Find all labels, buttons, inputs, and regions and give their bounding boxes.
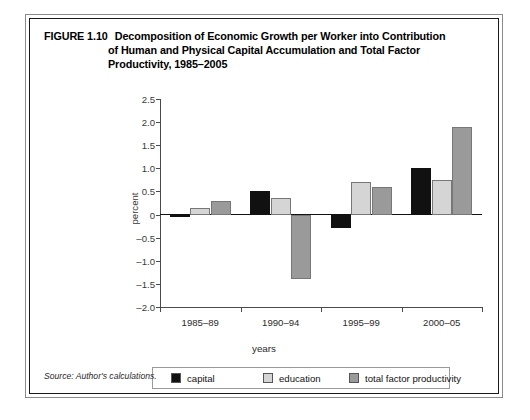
y-axis-tick-label: 1.0 xyxy=(115,163,155,174)
bar-capital-1990–94 xyxy=(250,191,270,214)
figure-title-line-3: Productivity, 1985–2005 xyxy=(108,57,484,71)
y-axis-tick-label: 2.5 xyxy=(115,94,155,105)
x-axis-tick-mark xyxy=(402,307,403,312)
bars-container: 2.52.01.51.00.50–0.5–1.0–1.5–2.0 xyxy=(160,99,482,307)
figure-title-line-1: Decomposition of Economic Growth per Wor… xyxy=(115,30,446,42)
y-axis-tick-mark xyxy=(156,168,160,169)
figure-title: FIGURE 1.10Decomposition of Economic Gro… xyxy=(44,29,484,72)
y-axis-tick-mark xyxy=(156,99,160,100)
y-axis-tick-label: 1.5 xyxy=(115,140,155,151)
figure-frame: FIGURE 1.10Decomposition of Economic Gro… xyxy=(25,14,503,398)
bar-total-factor-productivity-1985–89 xyxy=(211,201,231,215)
y-axis-tick-label: –1.5 xyxy=(115,278,155,289)
legend-swatch-education xyxy=(263,373,273,383)
x-axis-category-label: 1995–99 xyxy=(343,317,380,328)
y-axis-tick-label: –0.5 xyxy=(115,232,155,243)
legend-label: education xyxy=(279,373,321,384)
bar-capital-2000–05 xyxy=(411,168,431,214)
legend-label: capital xyxy=(187,373,215,384)
x-axis-category-label: 1985–89 xyxy=(182,317,219,328)
legend-item-total-factor-productivity: total factor productivity xyxy=(349,373,461,384)
bar-education-1995–99 xyxy=(351,182,371,214)
y-axis-title: percent xyxy=(129,193,140,225)
x-axis-tick-mark xyxy=(321,307,322,312)
figure-inner-border: FIGURE 1.10Decomposition of Economic Gro… xyxy=(29,18,499,394)
y-axis-tick-label: –2.0 xyxy=(115,302,155,313)
bar-capital-1985–89 xyxy=(170,215,190,217)
y-axis-tick-mark xyxy=(156,122,160,123)
bar-capital-1995–99 xyxy=(331,215,351,229)
y-axis-tick-mark xyxy=(156,261,160,262)
figure-title-line-2: of Human and Physical Capital Accumulati… xyxy=(108,43,484,57)
legend-item-education: education xyxy=(263,373,321,384)
chart-legend: capitaleducationtotal factor productivit… xyxy=(152,367,450,389)
plot-area: 2.52.01.51.00.50–0.5–1.0–1.5–2.0 percent… xyxy=(30,81,498,311)
legend-item-capital: capital xyxy=(171,373,215,384)
bar-total-factor-productivity-1995–99 xyxy=(372,187,392,215)
bar-education-1990–94 xyxy=(271,198,291,214)
y-axis-tick-label: –1.0 xyxy=(115,255,155,266)
legend-label: total factor productivity xyxy=(365,373,461,384)
y-axis-tick-mark xyxy=(156,284,160,285)
figure-number: FIGURE 1.10 xyxy=(44,30,108,42)
x-axis-tick-mark xyxy=(160,307,161,312)
bar-education-1985–89 xyxy=(190,208,210,215)
source-note: Source: Author's calculations. xyxy=(44,371,157,381)
y-axis-tick-mark xyxy=(156,191,160,192)
x-axis-category-label: 2000–05 xyxy=(423,317,460,328)
bar-education-2000–05 xyxy=(432,180,452,215)
legend-swatch-total-factor-productivity xyxy=(349,373,359,383)
x-axis-tick-mark xyxy=(482,307,483,312)
x-axis-category-label: 1990–94 xyxy=(262,317,299,328)
bar-total-factor-productivity-1990–94 xyxy=(291,215,311,280)
y-axis-tick-mark xyxy=(156,145,160,146)
bar-total-factor-productivity-2000–05 xyxy=(452,127,472,215)
x-axis-title: years xyxy=(30,343,498,354)
y-axis-tick-mark xyxy=(156,238,160,239)
y-axis-tick-label: 2.0 xyxy=(115,117,155,128)
legend-swatch-capital xyxy=(171,373,181,383)
x-axis-tick-mark xyxy=(241,307,242,312)
